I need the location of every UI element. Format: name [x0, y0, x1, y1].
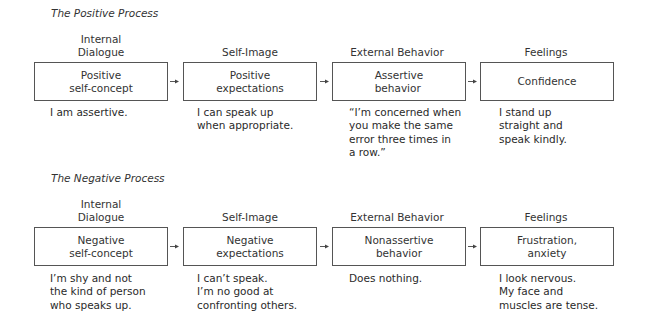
positive-header-self-image: Self-Image — [183, 46, 317, 59]
positive-self-image-example: I can speak up when appropriate. — [197, 106, 293, 133]
arrow-right-icon — [320, 244, 329, 249]
assertive-behavior-box: Assertive behavior — [332, 62, 466, 101]
negative-internal-dialogue-example: I’m shy and not the kind of person who s… — [50, 272, 146, 312]
positive-internal-dialogue-example: I am assertive. — [50, 106, 128, 119]
positive-header-feelings: Feelings — [479, 46, 613, 59]
negative-header-self-image: Self-Image — [183, 211, 317, 224]
box-label: Positive expectations — [216, 69, 284, 95]
positive-feelings-example: I stand up straight and speak kindly. — [499, 106, 567, 146]
positive-expectations-box: Positive expectations — [183, 62, 317, 101]
nonassertive-behavior-box: Nonassertive behavior — [332, 227, 466, 266]
box-label: Positive self-concept — [69, 69, 133, 95]
negative-self-image-example: I can’t speak. I’m no good at confrontin… — [197, 272, 297, 312]
arrow-right-icon — [468, 79, 477, 84]
box-label: Confidence — [517, 75, 576, 88]
positive-header-external-behavior: External Behavior — [330, 46, 464, 59]
positive-process-title: The Positive Process — [51, 7, 158, 19]
negative-expectations-box: Negative expectations — [183, 227, 317, 266]
negative-header-external-behavior: External Behavior — [330, 211, 464, 224]
arrow-right-icon — [468, 244, 477, 249]
confidence-box: Confidence — [480, 62, 614, 101]
positive-self-concept-box: Positive self-concept — [34, 62, 168, 101]
positive-header-internal-dialogue: Internal Dialogue — [34, 33, 168, 59]
negative-header-internal-dialogue: Internal Dialogue — [34, 198, 168, 224]
negative-process-title: The Negative Process — [51, 172, 165, 184]
arrow-right-icon — [320, 79, 329, 84]
arrow-right-icon — [170, 244, 179, 249]
negative-external-behavior-example: Does nothing. — [349, 272, 422, 285]
box-label: Negative expectations — [216, 234, 284, 260]
box-label: Assertive behavior — [375, 69, 424, 95]
arrow-right-icon — [170, 79, 179, 84]
negative-self-concept-box: Negative self-concept — [34, 227, 168, 266]
box-label: Nonassertive behavior — [365, 234, 434, 260]
box-label: Frustration, anxiety — [517, 234, 577, 260]
negative-header-feelings: Feelings — [479, 211, 613, 224]
box-label: Negative self-concept — [69, 234, 133, 260]
frustration-anxiety-box: Frustration, anxiety — [480, 227, 614, 266]
positive-external-behavior-example: “I’m concerned when you make the same er… — [349, 106, 461, 159]
negative-feelings-example: I look nervous. My face and muscles are … — [499, 272, 598, 312]
